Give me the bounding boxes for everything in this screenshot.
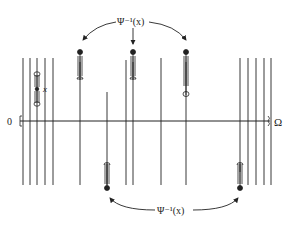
upper-fiber-3 xyxy=(183,50,189,97)
omega-label: Ω xyxy=(274,116,282,128)
upper-fiber-2 xyxy=(130,50,136,81)
x-point-label: x xyxy=(42,84,47,94)
bottom-psi-inverse-label: Ψ⁻¹(x) xyxy=(157,205,184,217)
upper-fiber-1 xyxy=(77,50,83,81)
lower-fiber-1 xyxy=(104,163,110,191)
omega-axis xyxy=(20,116,270,126)
origin-label: 0 xyxy=(7,116,12,127)
top-psi-inverse-label: Ψ⁻¹(x) xyxy=(117,16,144,28)
lower-fiber-2 xyxy=(237,163,243,191)
fiber-diagram: 0 Ω x xyxy=(0,0,295,227)
